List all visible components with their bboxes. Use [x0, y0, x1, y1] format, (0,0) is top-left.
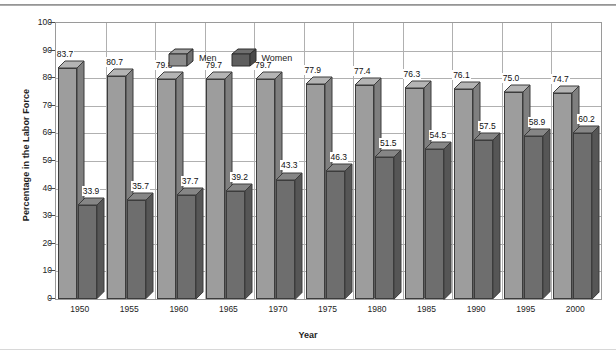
bar-women-1955[interactable] [127, 200, 146, 299]
bar-value-label: 51.5 [379, 138, 398, 148]
bar-value-label: 57.5 [478, 121, 497, 131]
y-axis-tick-label: 50 [0, 155, 52, 165]
y-axis-tick-label: 10 [0, 265, 52, 275]
bar-3d-faces [474, 132, 502, 300]
bar-value-label: 58.9 [528, 117, 547, 127]
bar-value-label: 80.7 [105, 57, 124, 67]
bar-women-2000[interactable] [573, 133, 592, 299]
y-axis-tick-label: 70 [0, 100, 52, 110]
bar-women-1995[interactable] [524, 136, 543, 299]
bar-value-label: 60.2 [577, 114, 596, 124]
x-axis-tick-label: 1955 [105, 304, 155, 314]
legend-item-men[interactable]: Men [168, 48, 217, 68]
y-axis-tick-label: 0 [0, 293, 52, 303]
y-axis-tick-label: 30 [0, 210, 52, 220]
bar-3d-faces [276, 172, 304, 301]
x-axis-tick-label: 2000 [550, 304, 600, 314]
bar-women-1975[interactable] [326, 171, 345, 299]
x-axis-tick-label: 1970 [253, 304, 303, 314]
bar-women-1950[interactable] [78, 205, 97, 299]
plot-area: 83.733.980.735.779.837.779.739.279.743.3… [55, 22, 602, 300]
bar-men-2000[interactable] [553, 93, 572, 299]
legend-label-women: Women [262, 53, 293, 63]
legend-label-men: Men [199, 53, 217, 63]
y-axis-tick-label: 60 [0, 127, 52, 137]
bar-men-1975[interactable] [306, 84, 325, 299]
bar-value-label: 76.1 [452, 70, 471, 80]
bar-men-1965[interactable] [206, 79, 225, 299]
bar-value-label: 37.7 [181, 176, 200, 186]
bar-value-label: 75.0 [502, 73, 521, 83]
bar-women-1965[interactable] [226, 191, 245, 299]
bar-women-1985[interactable] [425, 149, 444, 299]
bar-3d-faces [573, 125, 601, 300]
bar-value-label: 54.5 [429, 130, 448, 140]
y-axis-tick-label: 90 [0, 45, 52, 55]
bar-3d-faces [326, 163, 354, 300]
bar-3d-faces [425, 141, 453, 300]
bar-value-label: 46.3 [330, 152, 349, 162]
bar-men-1995[interactable] [504, 92, 523, 299]
bar-men-1960[interactable] [157, 79, 176, 299]
x-axis-tick-label: 1985 [402, 304, 452, 314]
bar-value-label: 77.4 [353, 66, 372, 76]
bar-men-1980[interactable] [355, 85, 374, 299]
x-axis-title: Year [0, 330, 616, 340]
x-axis-tick-label: 1950 [55, 304, 105, 314]
bar-value-label: 39.2 [230, 172, 249, 182]
gridline-horizontal [56, 51, 601, 52]
top-divider-rule [0, 4, 616, 6]
bar-chart: Percentage in the Labor Force 0102030405… [0, 0, 616, 355]
bar-women-1980[interactable] [375, 157, 394, 299]
y-axis-tick-label: 20 [0, 238, 52, 248]
legend-item-women[interactable]: Women [231, 48, 293, 68]
women-cube-swatch [231, 48, 257, 68]
bar-value-label: 83.7 [56, 49, 75, 59]
bar-men-1985[interactable] [405, 88, 424, 299]
bar-3d-faces [177, 187, 205, 300]
y-axis-tick-label: 100 [0, 17, 52, 27]
bar-value-label: 43.3 [280, 160, 299, 170]
x-axis-tick-label: 1965 [204, 304, 254, 314]
bar-value-label: 35.7 [131, 181, 150, 191]
bar-men-1970[interactable] [256, 79, 275, 299]
bar-value-label: 33.9 [82, 186, 101, 196]
y-axis-tick-label: 80 [0, 72, 52, 82]
bar-3d-faces [127, 192, 155, 300]
x-axis-tick-label: 1975 [303, 304, 353, 314]
bar-men-1955[interactable] [107, 76, 126, 299]
bar-men-1950[interactable] [58, 68, 77, 299]
bar-value-label: 77.9 [304, 65, 323, 75]
bar-3d-faces [226, 183, 254, 300]
bar-women-1970[interactable] [276, 180, 295, 300]
bottom-divider-rule [0, 349, 616, 350]
bar-women-1960[interactable] [177, 195, 196, 299]
x-axis-tick-label: 1995 [501, 304, 551, 314]
x-axis-tick-label: 1990 [451, 304, 501, 314]
chart-legend: Men Women [168, 43, 292, 73]
bar-women-1990[interactable] [474, 140, 493, 299]
bar-3d-faces [375, 149, 403, 300]
bar-value-label: 76.3 [403, 69, 422, 79]
bar-3d-faces [524, 128, 552, 300]
x-axis-tick-label: 1960 [154, 304, 204, 314]
y-axis-tick-label: 40 [0, 183, 52, 193]
men-cube-swatch [168, 48, 194, 68]
bar-men-1990[interactable] [454, 89, 473, 299]
bar-3d-faces [78, 197, 106, 300]
x-axis-tick-label: 1980 [352, 304, 402, 314]
bar-value-label: 74.7 [551, 74, 570, 84]
